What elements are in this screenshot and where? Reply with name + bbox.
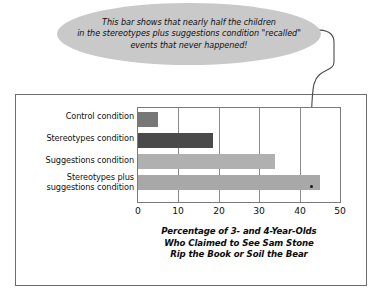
x-tick-label: 10 [172, 205, 184, 216]
callout-text: This bar shows that nearly half the chil… [69, 17, 309, 51]
callout-anchor-dot [310, 185, 313, 188]
category-label: Control condition [16, 111, 134, 121]
bar-control-condition [138, 112, 158, 127]
callout-bubble: This bar shows that nearly half the chil… [57, 3, 321, 65]
bar-stereotypes-plus-suggestions-condition [138, 175, 320, 190]
bar-series [138, 108, 340, 202]
x-tick-label: 40 [294, 205, 306, 216]
bar-stereotypes-condition [138, 133, 213, 148]
category-label: Stereotypes plus suggestions condition [16, 172, 134, 193]
x-tick-label: 50 [334, 205, 346, 216]
category-label: Stereotypes condition [16, 133, 134, 143]
bar-suggestions-condition [138, 154, 275, 169]
plot-area [137, 107, 341, 203]
category-label: Suggestions condition [16, 155, 134, 165]
x-axis-ticks: 0 10 20 30 40 50 [137, 205, 341, 219]
category-axis-labels: Control condition Stereotypes condition … [16, 106, 134, 202]
x-tick-label: 20 [213, 205, 225, 216]
figure-root: This bar shows that nearly half the chil… [0, 0, 380, 299]
x-tick-label: 30 [253, 205, 265, 216]
x-axis-caption: Percentage of 3- and 4-Year-Olds Who Cla… [130, 226, 348, 261]
x-tick-label: 0 [135, 205, 141, 216]
